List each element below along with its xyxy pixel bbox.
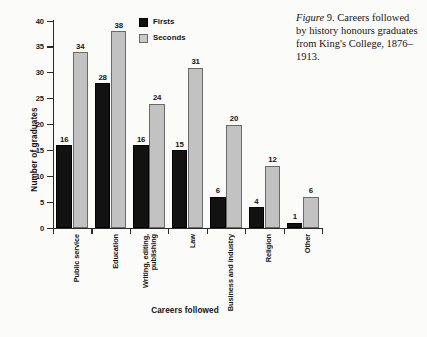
- category-label-line: publishing: [149, 234, 158, 270]
- category-label-0: Public service: [65, 234, 79, 312]
- bar-seconds-3: [188, 68, 204, 228]
- category-label-2: Writing, editing,publishing: [142, 234, 156, 312]
- bar-firsts-4: [210, 197, 226, 228]
- x-axis-line: [53, 228, 323, 229]
- y-axis-title-wrap: Number of graduates: [18, 45, 32, 205]
- bar-value-label-seconds-4: 20: [221, 114, 247, 123]
- figure-bar-chart: Figure 9. Careers followed by history ho…: [0, 0, 427, 337]
- bar-firsts-0: [56, 145, 72, 228]
- category-label-4: Business and industry: [219, 234, 233, 312]
- y-tick-label-40: 40: [22, 17, 44, 26]
- category-label-3: Law: [181, 234, 195, 312]
- category-label-5: Religion: [257, 234, 271, 312]
- bar-seconds-6: [303, 197, 319, 228]
- y-axis-title: Number of graduates: [30, 70, 39, 230]
- bar-firsts-6: [287, 223, 303, 228]
- bar-value-label-seconds-5: 12: [259, 155, 285, 164]
- figure-number: 9.: [327, 12, 335, 23]
- category-label-line: Other: [303, 234, 312, 253]
- category-label-1: Education: [104, 234, 118, 312]
- bar-seconds-1: [111, 31, 127, 228]
- bar-series-container: 163428381624153162041216: [53, 21, 323, 228]
- x-axis-category-labels: Public serviceEducationWriting, editing,…: [53, 234, 323, 314]
- bar-value-label-seconds-6: 6: [298, 186, 324, 195]
- bar-value-label-seconds-2: 24: [144, 93, 170, 102]
- bar-firsts-1: [95, 83, 111, 228]
- bar-firsts-2: [133, 145, 149, 228]
- category-label-line: Religion: [264, 234, 273, 262]
- bar-firsts-3: [172, 150, 188, 228]
- bar-value-label-seconds-1: 38: [106, 21, 132, 30]
- category-label-6: Other: [296, 234, 310, 312]
- bar-value-label-seconds-3: 31: [183, 57, 209, 66]
- bar-seconds-2: [149, 104, 165, 228]
- x-axis-title: Careers followed: [110, 306, 260, 315]
- bar-firsts-5: [249, 207, 265, 228]
- category-label-line: Business and industry: [226, 234, 235, 311]
- category-label-line: Public service: [72, 234, 81, 282]
- bar-seconds-5: [265, 166, 281, 228]
- bar-seconds-4: [226, 125, 242, 229]
- bar-value-label-seconds-0: 34: [67, 42, 93, 51]
- category-label-line: Law: [188, 234, 197, 248]
- category-label-line: Education: [111, 234, 120, 269]
- bar-seconds-0: [73, 52, 89, 228]
